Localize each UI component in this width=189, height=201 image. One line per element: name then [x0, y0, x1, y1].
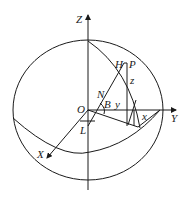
point-b-label: B — [104, 98, 111, 110]
origin-label: O — [77, 103, 85, 115]
sphere-diagram: Z Y X O H P z N B y x L — [0, 0, 189, 201]
coord-x-label: x — [141, 110, 147, 122]
inner-diagonal — [128, 100, 136, 125]
y-axis-label: Y — [171, 112, 179, 124]
z-axis-label: Z — [76, 13, 83, 25]
x-axis-label: X — [36, 148, 45, 160]
coord-z-label: z — [129, 74, 135, 86]
point-p-label: P — [128, 58, 136, 70]
coord-y-label: y — [114, 98, 120, 110]
point-l-label: L — [79, 124, 86, 136]
point-h-label: H — [114, 58, 124, 70]
